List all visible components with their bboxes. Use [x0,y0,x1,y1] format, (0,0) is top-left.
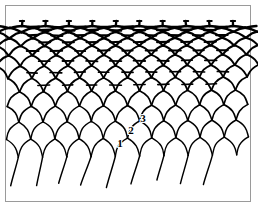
figure-root: 123 [0,0,258,209]
callout-number-1: 1 [117,137,123,149]
callout-number-2: 2 [128,124,134,136]
mesh-top-stubs [20,21,235,26]
callout-number-3: 3 [140,112,146,124]
mesh-loop-network [0,26,258,157]
mesh-fabric-illustration: 123 [0,0,258,209]
mesh-fringe-threads [11,155,213,187]
callout-number-group: 123 [117,112,146,149]
